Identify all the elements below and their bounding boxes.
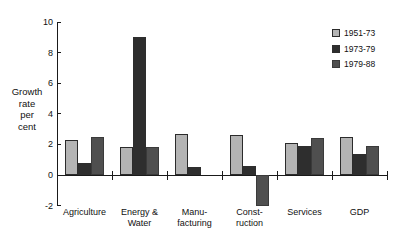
bar-1973-79-energywater [133, 37, 146, 175]
legend-swatch-icon [332, 45, 340, 53]
bar-1951-73-gdp [340, 137, 353, 175]
x-axis-label-gdp: GDP [332, 207, 387, 218]
legend-swatch-icon [332, 29, 340, 37]
bar-1979-88-gdp [366, 146, 379, 175]
bar-1951-73-manufacturing [175, 134, 188, 175]
bar-1973-79-construction [243, 166, 256, 175]
y-axis-tick-label: 8 [48, 48, 53, 57]
legend-item-label: 1979-88 [344, 60, 375, 69]
chart-legend: 1951-731973-791979-88 [332, 29, 375, 69]
bar-1979-88-energywater [146, 147, 159, 175]
x-axis-label-services: Services [277, 207, 332, 218]
y-axis-tick-label: 4 [48, 109, 53, 118]
legend-item-label: 1973-79 [344, 45, 375, 54]
x-axis-label-manufacturing: Manu- facturing [167, 207, 222, 229]
bar-1973-79-manufacturing [188, 167, 201, 175]
y-axis-tick-label: 0 [48, 171, 53, 180]
bar-1973-79-services [298, 146, 311, 175]
bar-1979-88-agriculture [91, 137, 104, 175]
bar-1951-73-agriculture [65, 140, 78, 175]
x-axis-label-construction: Const- ruction [222, 207, 277, 229]
bar-1951-73-energywater [120, 147, 133, 175]
legend-item-1979-88[interactable]: 1979-88 [332, 60, 375, 69]
x-axis-group-tick [387, 171, 388, 180]
legend-item-1973-79[interactable]: 1973-79 [332, 45, 375, 54]
y-axis-tick: -2 [57, 205, 61, 206]
legend-item-1951-73[interactable]: 1951-73 [332, 29, 375, 38]
y-axis-tick-mark [57, 205, 61, 206]
x-axis-label-energywater: Energy & Water [112, 207, 167, 229]
y-axis-tick-label: 6 [48, 79, 53, 88]
y-axis-tick-label: -2 [45, 201, 53, 210]
legend-swatch-icon [332, 60, 340, 68]
bar-1979-88-construction [256, 175, 269, 206]
x-axis-label-agriculture: Agriculture [57, 207, 112, 218]
bar-chart-figure: Growth rate per cent -20246810 Agricultu… [0, 0, 395, 250]
bar-1979-88-services [311, 138, 324, 175]
bar-1951-73-construction [230, 135, 243, 175]
bar-1951-73-services [285, 143, 298, 175]
bar-1973-79-agriculture [78, 163, 91, 175]
y-axis-tick-label: 10 [43, 18, 53, 27]
y-axis-tick-label: 2 [48, 140, 53, 149]
bar-1973-79-gdp [353, 154, 366, 175]
legend-item-label: 1951-73 [344, 29, 375, 38]
y-axis-title: Growth rate per cent [2, 86, 52, 132]
